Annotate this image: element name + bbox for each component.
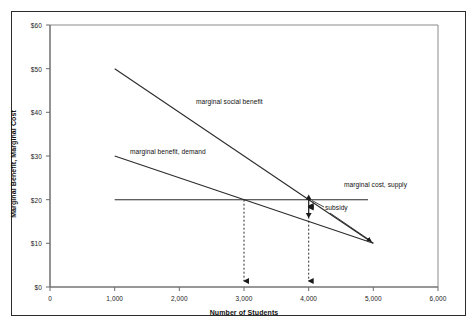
x-tick-label: 1,000 xyxy=(106,295,123,302)
chart-figure: $60 $50 $40 $30 $20 $10 $0 0 1,000 2,000… xyxy=(0,0,475,328)
y-tick-label: $10 xyxy=(16,240,42,247)
x-tick-label: 2,000 xyxy=(171,295,188,302)
y-tick-label: $60 xyxy=(16,22,42,29)
x-tick-label: 3,000 xyxy=(236,295,253,302)
x-tick-label: 0 xyxy=(48,295,52,302)
y-tick-label: $0 xyxy=(16,284,42,291)
leader-line-subsidy-lower xyxy=(330,213,371,241)
y-tick-label: $20 xyxy=(16,196,42,203)
series-label-marginal-benefit-demand: marginal benefit, demand xyxy=(130,148,206,155)
x-axis-title: Number of Students xyxy=(210,309,279,316)
y-tick-label: $40 xyxy=(16,109,42,116)
plot-canvas xyxy=(0,0,475,328)
y-axis-ticks xyxy=(46,25,50,287)
x-axis-ticks xyxy=(50,287,438,291)
series-label-marginal-cost-supply: marginal cost, supply xyxy=(344,181,407,188)
annotation-label-subsidy: subsidy xyxy=(325,204,348,211)
x-tick-label: 5,000 xyxy=(365,295,382,302)
y-tick-label: $50 xyxy=(16,65,42,72)
x-tick-label: 6,000 xyxy=(430,295,447,302)
x-tick-label: 4,000 xyxy=(300,295,317,302)
series-label-marginal-social-benefit: marginal social benefit xyxy=(196,98,263,105)
y-tick-label: $30 xyxy=(16,153,42,160)
y-axis-title: Marginal Benefit, Marginal Cost xyxy=(10,110,17,218)
